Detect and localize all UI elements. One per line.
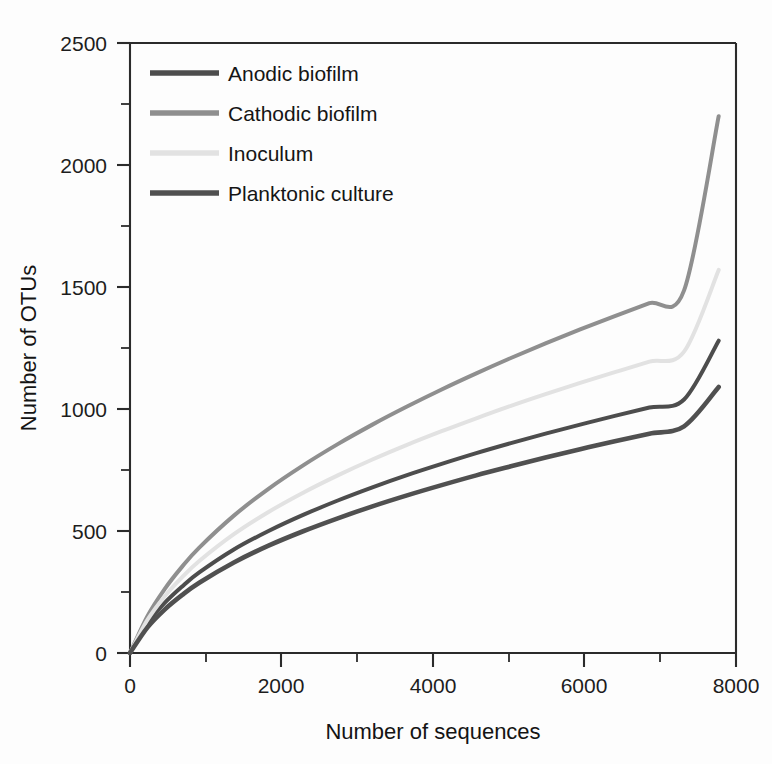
- legend-label-anodic-biofilm: Anodic biofilm: [228, 62, 359, 85]
- y-tick-label-500: 500: [72, 520, 107, 543]
- x-tick-label-4000: 4000: [410, 674, 457, 697]
- chart-container: 0 500 1000 1500 2000 2500 0 2000 4000 60…: [0, 0, 772, 764]
- x-axis-title: Number of sequences: [325, 719, 540, 744]
- x-tick-label-6000: 6000: [561, 674, 608, 697]
- legend-label-planktonic-culture: Planktonic culture: [228, 182, 394, 205]
- x-tick-label-0: 0: [124, 674, 136, 697]
- y-tick-label-1000: 1000: [60, 398, 107, 421]
- y-tick-label-0: 0: [95, 642, 107, 665]
- x-tick-label-8000: 8000: [713, 674, 760, 697]
- y-tick-label-1500: 1500: [60, 276, 107, 299]
- y-tick-label-2000: 2000: [60, 154, 107, 177]
- y-tick-label-2500: 2500: [60, 32, 107, 55]
- y-axis-title: Number of OTUs: [16, 265, 41, 431]
- rarefaction-curve-chart: 0 500 1000 1500 2000 2500 0 2000 4000 60…: [0, 0, 772, 764]
- legend-label-inoculum: Inoculum: [228, 142, 313, 165]
- x-tick-label-2000: 2000: [258, 674, 305, 697]
- chart-background: [0, 0, 772, 764]
- legend-label-cathodic-biofilm: Cathodic biofilm: [228, 102, 377, 125]
